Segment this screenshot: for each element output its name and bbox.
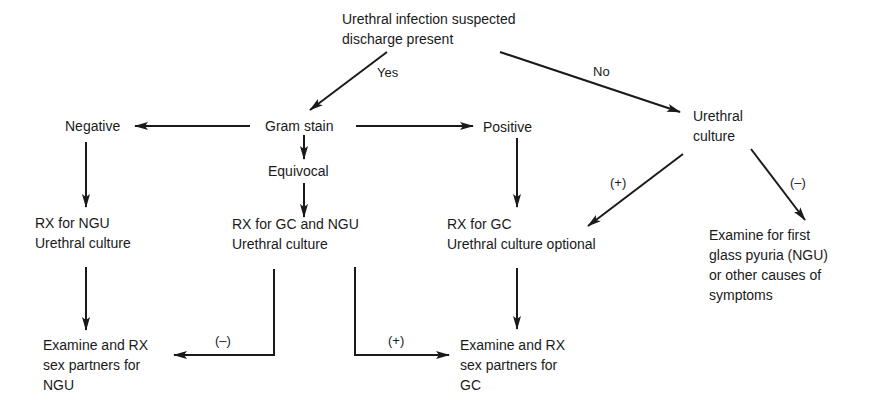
node-examine-pyuria: Examine for first glass pyuria (NGU) or … <box>709 225 828 305</box>
edge-label-culture-positive: (+) <box>610 175 626 191</box>
edge-label-equivocal-positive: (+) <box>388 333 404 349</box>
edge-culture-to-rx-gc <box>588 154 683 226</box>
node-rx-gc-ngu: RX for GC and NGU Urethral culture <box>232 214 359 254</box>
node-equivocal: Equivocal <box>268 161 329 181</box>
node-positive: Positive <box>483 117 532 137</box>
edge-label-no: No <box>593 64 610 80</box>
edge-label-culture-negative: (–) <box>790 175 806 191</box>
node-negative: Negative <box>65 116 120 136</box>
node-gram-stain: Gram stain <box>265 116 333 136</box>
edge-start-to-urethral-culture <box>500 52 680 112</box>
edge-label-equivocal-negative: (–) <box>215 333 231 349</box>
edge-start-to-gram-stain <box>310 52 387 110</box>
node-urethral-culture: Urethral culture <box>693 106 743 146</box>
node-rx-gc: RX for GC Urethral culture optional <box>447 214 596 254</box>
node-partners-gc: Examine and RX sex partners for GC <box>460 335 565 395</box>
node-urethral-infection-suspected: Urethral infection suspected discharge p… <box>342 9 516 49</box>
node-rx-ngu: RX for NGU Urethral culture <box>35 213 131 253</box>
edge-label-yes: Yes <box>377 65 398 81</box>
node-partners-ngu: Examine and RX sex partners for NGU <box>43 335 148 395</box>
